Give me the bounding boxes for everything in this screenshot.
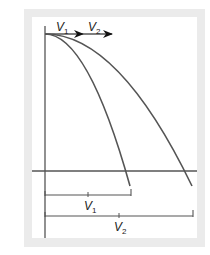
- range-dimension-v2: [45, 210, 193, 218]
- range-label-v2: V2: [114, 220, 127, 236]
- trajectory-diagram: V1 V2 V1 V2: [0, 0, 210, 255]
- velocity-label-v1: V1: [56, 20, 69, 36]
- range-label-v1: V1: [84, 199, 97, 215]
- trajectory-v1-curve: [45, 34, 130, 186]
- velocity-label-v2: V2: [88, 20, 101, 36]
- trajectory-v2-curve: [45, 34, 192, 186]
- range-dimension-v1: [45, 189, 131, 197]
